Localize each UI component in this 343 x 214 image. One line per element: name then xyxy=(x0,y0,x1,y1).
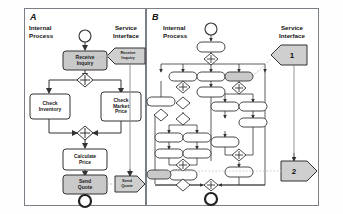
activity-check-inventory-label: CheckInventory xyxy=(30,94,70,119)
activity-node[interactable] xyxy=(147,97,175,106)
activity-node[interactable] xyxy=(225,167,253,177)
activity-node[interactable] xyxy=(155,149,183,158)
end-node-a xyxy=(79,195,91,207)
activity-node[interactable] xyxy=(197,42,225,52)
start-node-a xyxy=(79,30,91,42)
activity-receive-inquiry-label: ReceiveInquiry xyxy=(63,51,107,70)
panel-b: B InternalProcess ServiceInterface xyxy=(146,8,319,206)
fork-node-a xyxy=(77,73,93,87)
activity-node[interactable] xyxy=(197,72,225,81)
activity-node[interactable] xyxy=(239,118,267,127)
interface-marker-1-label: 1 xyxy=(277,45,307,65)
figure-root: A InternalProcess ServiceInterface xyxy=(0,0,343,214)
activity-node[interactable] xyxy=(211,102,239,111)
activity-node-highlighted[interactable] xyxy=(225,72,253,81)
activity-node[interactable] xyxy=(183,149,211,158)
end-node-b xyxy=(205,193,217,205)
start-node-b xyxy=(205,23,217,35)
interface-send-quote-label: SendQuote xyxy=(115,176,139,192)
activity-node[interactable] xyxy=(155,133,183,142)
activity-node[interactable] xyxy=(183,133,211,142)
activity-calculate-price-label: CalculatePrice xyxy=(63,149,107,170)
interface-receive-inquiry-label: ReceiveInquiry xyxy=(113,48,143,64)
activity-node[interactable] xyxy=(169,72,197,81)
activity-node-highlighted[interactable] xyxy=(147,170,171,179)
activity-node[interactable] xyxy=(197,87,225,97)
activity-node[interactable] xyxy=(239,102,267,111)
activity-node[interactable] xyxy=(211,137,239,147)
join-node-a xyxy=(77,126,93,140)
activity-send-quote-label: SendQuote xyxy=(63,175,107,194)
panel-a: A InternalProcess ServiceInterface xyxy=(24,8,146,206)
activity-check-market-price-label: CheckMarketPrice xyxy=(101,92,141,121)
interface-marker-2-label: 2 xyxy=(279,161,309,181)
